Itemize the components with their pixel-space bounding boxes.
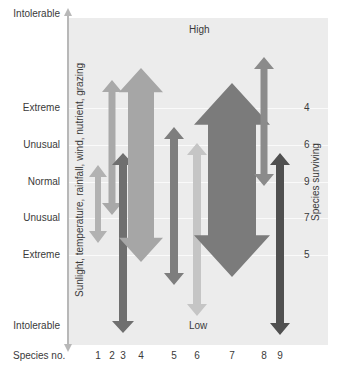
species-7-tolerance-arrow-icon (194, 83, 270, 277)
y-level-label: Intolerable (13, 320, 60, 331)
y-axis-title: Sunlight, temperature, rainfall, wind, n… (74, 63, 85, 297)
high-label: High (189, 24, 210, 35)
species-number: 7 (226, 350, 238, 361)
y-level-label: Normal (28, 176, 60, 187)
species-surviving-count: 9 (304, 176, 310, 187)
species-surviving-count: 5 (304, 249, 310, 260)
species-number: 3 (117, 350, 129, 361)
right-axis-title: Species surviving (310, 143, 321, 221)
y-level-label: Extreme (23, 102, 60, 113)
species-number: 1 (92, 350, 104, 361)
x-axis-title: Species no. (13, 350, 65, 361)
species-surviving-count: 6 (304, 139, 310, 150)
species-number: 8 (258, 350, 270, 361)
species-number: 5 (168, 350, 180, 361)
species-5-tolerance-arrow-icon (164, 127, 184, 285)
species-surviving-count: 7 (304, 212, 310, 223)
species-number: 9 (274, 350, 286, 361)
species-tolerance-arrows (0, 0, 340, 374)
species-surviving-count: 4 (304, 102, 310, 113)
species-9-tolerance-arrow-icon (270, 153, 290, 335)
species-number: 6 (191, 350, 203, 361)
y-level-label: Unusual (23, 212, 60, 223)
y-level-label: Intolerable (13, 8, 60, 19)
y-level-label: Unusual (23, 139, 60, 150)
species-number: 4 (135, 350, 147, 361)
species-6-tolerance-arrow-icon (187, 143, 207, 316)
y-level-label: Extreme (23, 249, 60, 260)
low-label: Low (189, 320, 207, 331)
